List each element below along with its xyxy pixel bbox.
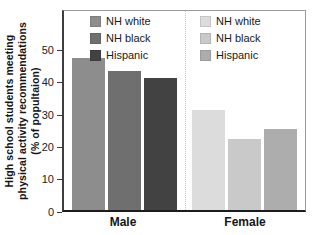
legend-swatch-icon [200,33,211,44]
legend-row-male-hispanic: Hispanic [90,49,151,62]
legend-label: NH white [106,15,151,28]
legend-label: NH black [216,32,261,45]
bar-group-male [64,58,185,210]
legend-label: NH black [106,32,151,45]
legend-row-female-nh-white: NH white [200,15,261,28]
y-tick-label-40: 40 [30,76,54,88]
y-tick-label-30: 30 [30,109,54,121]
legend-female: NH whiteNH blackHispanic [200,15,261,62]
bar-group-female [185,110,306,210]
legend-row-female-hispanic: Hispanic [200,49,261,62]
bar-male-nh-black [108,71,141,210]
x-label-female: Female [184,215,306,229]
x-axis-labels: Male Female [62,215,306,229]
legend-male: NH whiteNH blackHispanic [90,15,151,62]
legend-row-male-nh-white: NH white [90,15,151,28]
bar-female-hispanic [264,129,297,210]
y-tick-label-0: 0 [30,206,54,218]
legend-row-female-nh-black: NH black [200,32,261,45]
bar-male-hispanic [144,78,177,210]
y-axis: 01020304050 [40,10,62,212]
y-axis-title-line-2: physical activity recommendations [16,10,29,212]
legend-swatch-icon [90,33,101,44]
y-tick-label-50: 50 [30,44,54,56]
legend-swatch-icon [90,16,101,27]
legend-label: Hispanic [216,49,258,62]
legend-swatch-icon [200,16,211,27]
legend-row-male-nh-black: NH black [90,32,151,45]
plot-area: NH whiteNH blackHispanic NH whiteNH blac… [62,10,306,212]
bar-male-nh-white [72,58,105,210]
bar-female-nh-black [228,139,261,210]
bar-chart-figure: High school students meeting physical ac… [0,0,313,235]
x-label-male: Male [62,215,184,229]
bar-female-nh-white [192,110,225,210]
legend-label: Hispanic [106,49,148,62]
legend-label: NH white [216,15,261,28]
legend-swatch-icon [200,50,211,61]
y-tick-label-10: 10 [30,173,54,185]
y-tick-label-20: 20 [30,141,54,153]
y-axis-title-line-1: High school students meeting [3,10,16,212]
legend-swatch-icon [90,50,101,61]
